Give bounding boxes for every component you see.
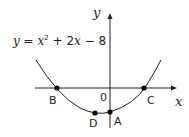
eq-equals: = [20, 34, 38, 48]
origin-label: 0 [100, 92, 107, 103]
eq-y: y [13, 34, 20, 48]
eq-plus-2: + 2 [49, 34, 74, 48]
point-a-label: A [114, 116, 122, 127]
point-b-label: B [49, 95, 57, 106]
y-axis-arrow-icon [108, 13, 113, 19]
point-d [92, 110, 97, 115]
point-d-label: D [89, 118, 97, 129]
equation-label: y = x2 + 2x − 8 [13, 34, 106, 48]
eq-x2: x [74, 34, 81, 48]
point-c-label: C [147, 95, 155, 106]
eq-minus-8: − 8 [81, 34, 106, 48]
point-b [54, 85, 59, 90]
point-a [107, 109, 112, 114]
point-c [141, 85, 146, 90]
x-axis-arrow-icon [171, 86, 177, 91]
x-axis-label: x [175, 95, 182, 108]
y-axis-label: y [93, 6, 100, 19]
